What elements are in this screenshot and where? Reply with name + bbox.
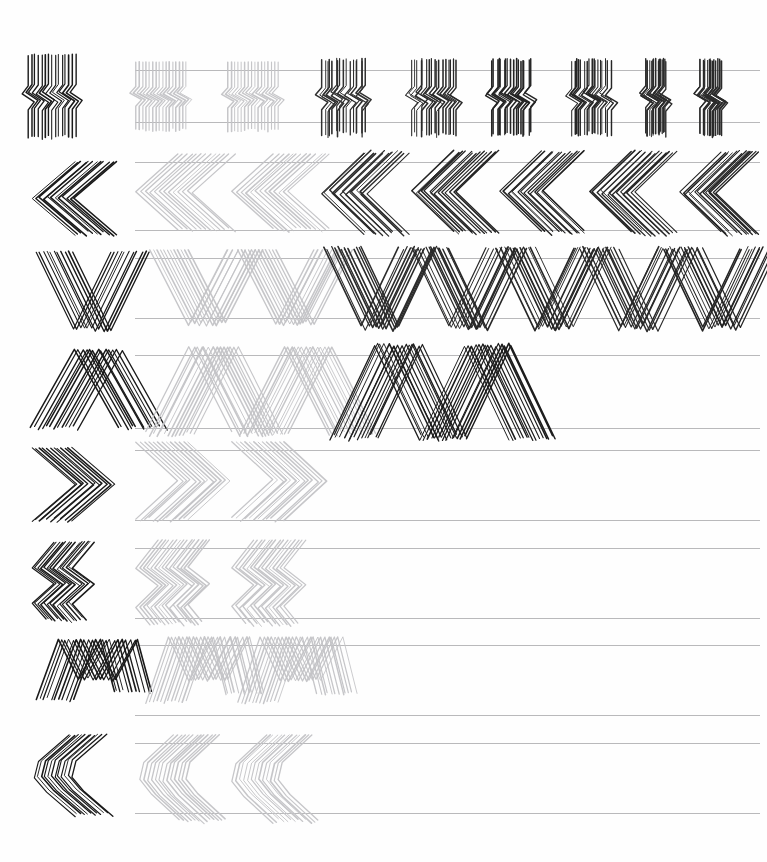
- exemplar-rounded-left-chevron: [34, 735, 112, 815]
- worksheet-page: [0, 0, 767, 862]
- template-rounded-left-chevron-2: [232, 735, 318, 821]
- guide-line-top: [135, 743, 760, 744]
- guide-line-bottom: [135, 813, 760, 814]
- template-rounded-left-chevron-1: [140, 735, 226, 821]
- practice-row-rounded-left-chevron: [0, 0, 767, 862]
